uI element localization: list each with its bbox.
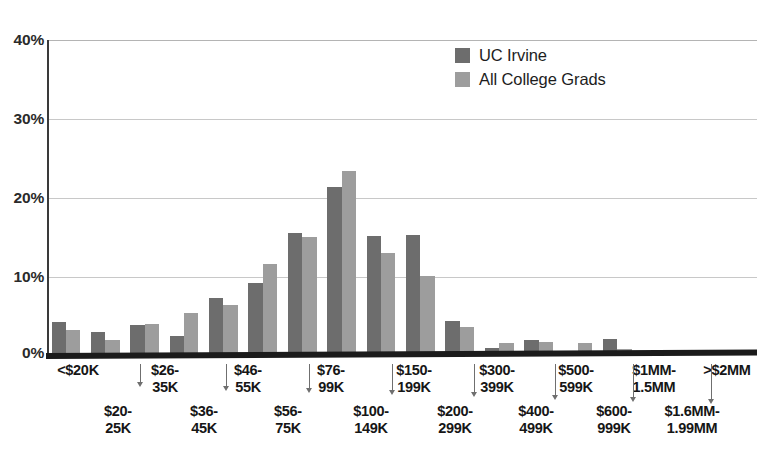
legend-label-all-college-grads: All College Grads: [479, 70, 606, 89]
bar-uc-irvine: [130, 325, 144, 355]
bar-group: [288, 40, 317, 355]
x-axis-label-bottom: $200- 299K: [410, 403, 500, 437]
bar-series-container: [48, 40, 757, 355]
bar-group: [642, 40, 671, 355]
bar-uc-irvine: [367, 236, 381, 355]
bar-uc-irvine: [288, 233, 302, 355]
bar-uc-irvine: [445, 321, 459, 355]
bar-group: [327, 40, 356, 355]
x-axis-label-top: $26- 35K: [120, 362, 210, 396]
bar-group: [170, 40, 199, 355]
x-axis-label-bottom: $56- 75K: [243, 403, 333, 437]
y-tick-20: 20%: [0, 189, 44, 207]
legend-item-all-college-grads: All College Grads: [455, 70, 606, 89]
bar-all-college-grads: [381, 253, 395, 355]
bar-group: [603, 40, 632, 355]
bar-uc-irvine: [209, 298, 223, 355]
bar-uc-irvine: [91, 332, 105, 355]
bar-uc-irvine: [327, 187, 341, 355]
x-axis-connector-arrow-icon: [629, 364, 638, 405]
x-axis-label-bottom: $1.6MM- 1.99MM: [647, 403, 737, 437]
x-axis-connector-arrow-icon: [470, 364, 479, 400]
legend-item-uc-irvine: UC Irvine: [455, 46, 606, 65]
bar-group: [130, 40, 159, 355]
y-tick-40: 40%: [0, 31, 44, 49]
x-axis-connector-arrow-icon: [707, 364, 716, 407]
chart-legend: UC Irvine All College Grads: [455, 46, 606, 89]
legend-label-uc-irvine: UC Irvine: [479, 46, 547, 65]
x-axis-connector-arrow-icon: [305, 364, 314, 396]
bar-all-college-grads: [420, 276, 434, 355]
y-tick-10: 10%: [0, 268, 44, 286]
x-axis-label-top: $76- 99K: [286, 362, 376, 396]
x-axis-label-bottom: $36- 45K: [159, 403, 249, 437]
x-axis-label-top: <$20K: [33, 362, 123, 379]
bar-group: [209, 40, 238, 355]
bar-group: [367, 40, 396, 355]
bar-group: [721, 40, 750, 355]
x-axis-label-container: <$20K$26- 35K$46- 55K$76- 99K$150- 199K$…: [0, 358, 764, 449]
x-axis-connector-arrow-icon: [551, 364, 560, 403]
bar-uc-irvine: [406, 235, 420, 355]
x-axis-connector-arrow-icon: [222, 364, 231, 394]
bar-all-college-grads: [223, 305, 237, 355]
x-axis-connector-arrow-icon: [388, 364, 397, 398]
bar-all-college-grads: [184, 313, 198, 355]
bar-group: [248, 40, 277, 355]
bar-all-college-grads: [66, 330, 80, 355]
x-axis-label-top: >$2MM: [682, 362, 764, 379]
x-axis-label-bottom: $20- 25K: [73, 403, 163, 437]
x-axis-label-top: $46- 55K: [203, 362, 293, 396]
x-axis-connector-arrow-icon: [136, 364, 145, 390]
legend-swatch-icon-dark: [455, 48, 470, 63]
x-axis-label-bottom: $100- 149K: [326, 403, 416, 437]
bar-all-college-grads: [145, 324, 159, 356]
bar-group: [682, 40, 711, 355]
income-distribution-bar-chart: 40% 30% 20% 10% 0% UC Irvine All College…: [0, 0, 764, 449]
bar-uc-irvine: [248, 283, 262, 355]
bar-all-college-grads: [263, 264, 277, 355]
x-axis-label-bottom: $400- 499K: [491, 403, 581, 437]
x-axis-label-top: $500- 599K: [531, 362, 621, 396]
x-axis-label-top: $150- 199K: [369, 362, 459, 396]
bar-group: [52, 40, 81, 355]
y-tick-30: 30%: [0, 110, 44, 128]
bar-uc-irvine: [52, 322, 66, 355]
legend-swatch-icon-light: [455, 72, 470, 87]
x-axis-label-bottom: $600- 999K: [569, 403, 659, 437]
bar-group: [91, 40, 120, 355]
x-axis-label-top: $300- 399K: [452, 362, 542, 396]
bar-group: [406, 40, 435, 355]
bar-all-college-grads: [302, 237, 316, 355]
bar-all-college-grads: [342, 171, 356, 355]
